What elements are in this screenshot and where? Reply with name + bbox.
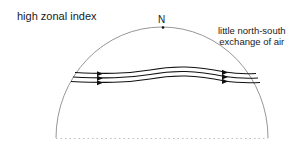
arrow-icon xyxy=(97,76,103,81)
hemisphere-diagram xyxy=(0,0,308,159)
arrow-icon xyxy=(97,71,103,76)
arrow-icon xyxy=(222,74,228,79)
north-pole-dot xyxy=(162,26,165,29)
arrow-icon xyxy=(222,70,228,75)
arrow-icon xyxy=(222,79,228,84)
arrow-icon xyxy=(97,80,103,85)
